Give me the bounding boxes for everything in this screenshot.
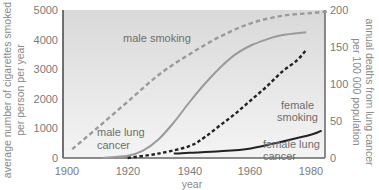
right-axis-label-line-1: annual deaths from lung cancer xyxy=(364,18,376,166)
left-axis-label: average number of cigarettes smoked per … xyxy=(1,2,26,178)
chart-container: 5000 4000 3000 2000 1000 0 200 150 100 5… xyxy=(0,0,379,190)
left-tick: 2000 xyxy=(34,93,58,105)
line-chart: 5000 4000 3000 2000 1000 0 200 150 100 5… xyxy=(0,0,379,190)
right-tick: 0 xyxy=(330,152,336,164)
left-tick: 5000 xyxy=(34,4,58,16)
left-tick: 3000 xyxy=(34,63,58,75)
annotation-male-lung-cancer: cancer xyxy=(97,139,130,151)
annotation-male-lung-cancer: male lung xyxy=(97,126,145,138)
annotation-female-lung-cancer: female lung xyxy=(263,138,320,150)
left-axis-label-line-2: per person per year xyxy=(14,44,26,136)
right-tick: 150 xyxy=(330,41,348,53)
annotation-female-lung-cancer: cancer xyxy=(263,150,296,162)
right-tick: 200 xyxy=(330,4,348,16)
x-tick: 1980 xyxy=(299,165,323,177)
x-tick: 1900 xyxy=(55,165,79,177)
annotation-female-smoking: female xyxy=(281,99,314,111)
x-tick: 1920 xyxy=(116,165,140,177)
left-tick: 1000 xyxy=(34,122,58,134)
left-tick-labels: 5000 4000 3000 2000 1000 0 xyxy=(34,4,58,164)
annotation-female-smoking: smoking xyxy=(277,111,318,123)
right-tick: 100 xyxy=(330,78,348,90)
x-tick: 1940 xyxy=(178,165,202,177)
x-tick-labels: 1900 1920 1940 1960 1980 xyxy=(55,165,323,177)
right-tick: 50 xyxy=(330,115,342,127)
annotation-male-smoking: male smoking xyxy=(123,32,191,44)
right-axis-label: annual deaths from lung cancer per 100 0… xyxy=(351,18,376,166)
right-axis-label-line-2: per 100 000 population xyxy=(351,38,363,146)
left-axis-label-line-1: average number of cigarettes smoked xyxy=(1,2,13,178)
left-tick: 4000 xyxy=(34,34,58,46)
x-axis-label: year xyxy=(182,178,203,190)
right-tick-labels: 200 150 100 50 0 xyxy=(330,4,348,164)
left-tick: 0 xyxy=(52,152,58,164)
x-tick: 1960 xyxy=(238,165,262,177)
